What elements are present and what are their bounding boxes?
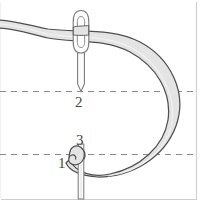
thread-loop xyxy=(0,20,180,177)
callout-label-3: 3 xyxy=(76,133,84,148)
thread-band xyxy=(0,20,180,177)
thread-hook-shape xyxy=(69,146,85,165)
callout-label-2: 2 xyxy=(75,95,83,110)
callout-label-1: 1 xyxy=(58,156,66,171)
thread-hook-point-1 xyxy=(69,146,85,165)
thread-through-eye xyxy=(73,26,88,36)
figure-container: 2 3 1 clipped caption line xyxy=(0,0,210,218)
caption-strip: clipped caption line xyxy=(0,209,210,218)
stitch-diagram-svg xyxy=(0,0,210,218)
needle-upper xyxy=(73,11,89,92)
dashed-guide-lines xyxy=(0,92,196,155)
